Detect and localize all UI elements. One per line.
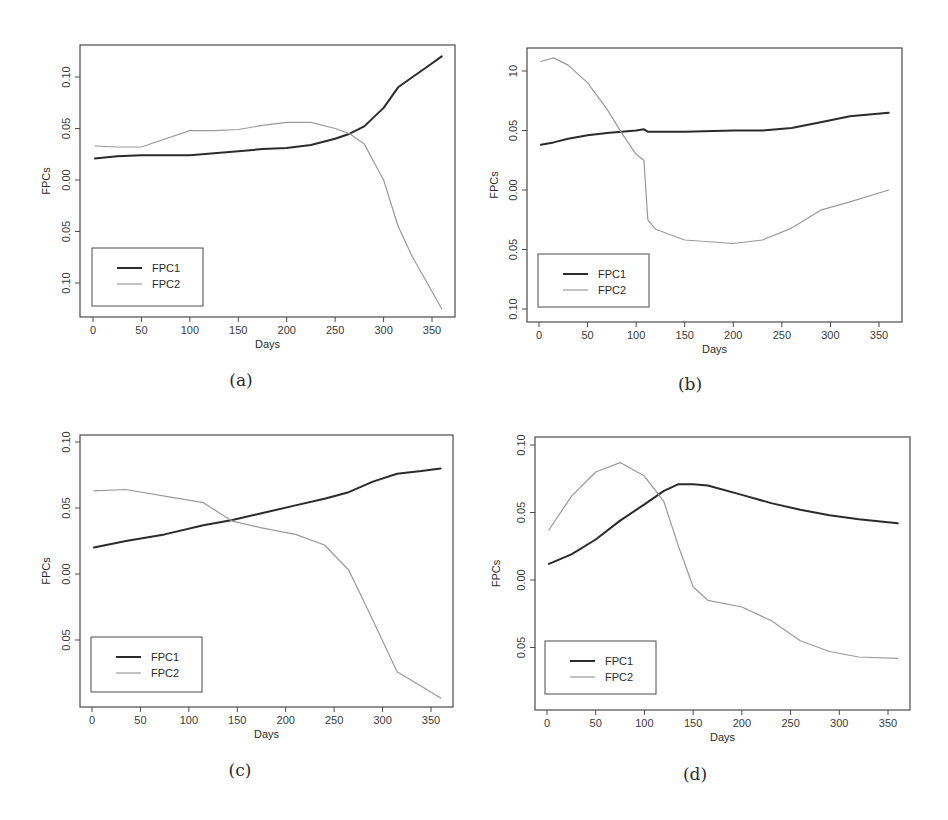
x-tick-label: 200 [733,717,751,729]
figure: 050100150200250300350Days0.100.050.000.0… [0,0,948,820]
panel-a: 050100150200250300350Days0.100.050.000.0… [40,45,455,390]
x-tick-label: 150 [228,714,246,726]
x-axis-label: Days [702,343,728,355]
panel-b: 050100150200250300350Days100.050.000.050… [488,48,902,394]
x-tick-label: 300 [373,714,391,726]
x-tick-label: 150 [684,717,702,729]
y-tick-label: 10 [507,65,519,77]
y-tick-label: 0.05 [507,120,519,141]
y-axis-label: FPCs [40,167,52,195]
x-tick-label: 0 [89,714,95,726]
y-tick-label: 0.05 [515,502,527,523]
legend: FPC1FPC2 [538,254,649,307]
x-tick-label: 0 [90,324,96,336]
y-tick-label: 0.05 [60,118,72,139]
x-axis-label: Days [255,338,281,350]
panel-c: 050100150200250300350Days0.100.050.000.0… [40,431,453,780]
x-tick-label: 50 [590,717,602,729]
legend: FPC1FPC2 [545,641,656,694]
x-tick-label: 350 [870,329,888,341]
panel-caption: (a) [229,370,252,390]
series-line-fpc1 [94,468,441,547]
y-tick-label: 0.05 [515,637,527,658]
legend-label-fpc2: FPC2 [598,284,626,296]
legend-label-fpc1: FPC1 [605,655,633,667]
x-tick-label: 250 [773,329,791,341]
y-tick-label: 0.10 [60,431,72,452]
y-tick-label: 0.05 [507,239,519,260]
panel-d: 050100150200250300350Days0.100.050.000.0… [490,434,910,784]
x-tick-label: 50 [581,329,593,341]
x-tick-label: 250 [326,324,344,336]
x-tick-label: 50 [134,714,146,726]
y-axis-label: FPCs [488,171,500,199]
legend-label-fpc2: FPC2 [605,671,633,683]
legend-label-fpc2: FPC2 [152,278,180,290]
legend-label-fpc1: FPC1 [151,651,179,663]
panel-caption: (d) [683,764,707,784]
series-line-fpc1 [549,484,898,564]
x-tick-label: 0 [536,329,542,341]
x-tick-label: 300 [830,717,848,729]
panel-caption: (b) [678,374,702,394]
x-tick-label: 0 [544,717,550,729]
y-axis-label: FPCs [40,557,52,585]
x-tick-label: 200 [278,324,296,336]
x-tick-label: 300 [821,329,839,341]
x-tick-label: 350 [879,717,897,729]
series-line-fpc1 [95,56,442,158]
y-tick-label: 0.05 [60,629,72,650]
series-line-fpc2 [549,463,898,659]
legend: FPC1FPC2 [92,248,203,306]
x-tick-label: 150 [229,324,247,336]
x-tick-label: 150 [676,329,694,341]
y-axis-label: FPCs [490,559,502,587]
x-tick-label: 100 [181,324,199,336]
x-tick-label: 300 [374,324,392,336]
x-tick-label: 100 [627,329,645,341]
y-tick-label: 0.05 [60,221,72,242]
x-tick-label: 250 [781,717,799,729]
y-tick-label: 0.10 [515,434,527,455]
legend-label-fpc1: FPC1 [598,268,626,280]
x-tick-label: 100 [180,714,198,726]
y-tick-label: 0.00 [60,169,72,190]
y-tick-label: 0.00 [515,569,527,590]
y-tick-label: 0.05 [60,497,72,518]
y-tick-label: 0.10 [60,66,72,87]
x-tick-label: 250 [325,714,343,726]
x-tick-label: 350 [422,714,440,726]
panel-caption: (c) [229,760,252,780]
x-axis-label: Days [254,728,280,740]
legend-label-fpc2: FPC2 [151,667,179,679]
x-tick-label: 350 [423,324,441,336]
x-tick-label: 100 [635,717,653,729]
series-line-fpc1 [541,113,889,145]
x-tick-label: 200 [724,329,742,341]
y-tick-label: 0.00 [507,179,519,200]
y-tick-label: 0.00 [60,563,72,584]
legend: FPC1FPC2 [91,637,202,692]
x-tick-label: 50 [135,324,147,336]
legend-box [538,254,649,307]
y-tick-label: 0.10 [60,272,72,293]
legend-box [91,637,202,692]
x-axis-label: Days [710,731,736,743]
legend-label-fpc1: FPC1 [152,262,180,274]
x-tick-label: 200 [277,714,295,726]
y-tick-label: 0.10 [507,298,519,319]
legend-box [92,248,203,306]
series-line-fpc2 [541,58,889,244]
legend-box [545,641,656,694]
